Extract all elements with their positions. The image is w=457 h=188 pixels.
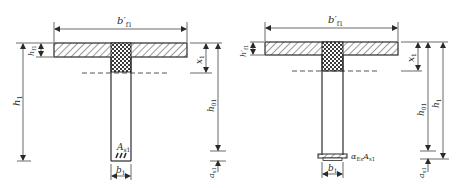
left-neutral-depth-label: x1 (194, 55, 205, 64)
right-flange-width-label: b′f1 (328, 14, 343, 28)
right-web-width-label: b1 (328, 163, 338, 174)
right-effective-depth-label: h01 (416, 103, 427, 116)
right-compression-zone (322, 42, 343, 71)
left-steel-area-label: As1 (116, 142, 130, 153)
right-neutral-depth-label: x1 (406, 53, 417, 62)
right-total-height-label: h1 (431, 98, 442, 108)
right-transformed-steel-plate (318, 154, 347, 158)
left-flange-thickness-label: hf1 (27, 45, 37, 56)
left-total-height-label: h1 (11, 95, 24, 106)
left-t-section: As1 b′f1 hf1 h1 b1 x1 h01 as1 (11, 15, 226, 180)
right-transformed-steel-label: αEsAs1 (351, 152, 375, 162)
left-compression-zone (111, 43, 131, 72)
left-cover-label: as1 (207, 167, 217, 178)
left-web-width-label: b1 (116, 165, 126, 176)
t-beam-diagram: As1 b′f1 hf1 h1 b1 x1 h01 as1 (0, 0, 457, 188)
left-flange-width-label: b′f1 (117, 15, 132, 29)
right-flange-thickness-label: h′f1 (239, 44, 249, 57)
right-t-section: αEsAs1 b′f1 h′f1 b1 x1 h01 h1 as1 (239, 14, 449, 178)
left-effective-depth-label: h01 (206, 99, 217, 112)
right-cover-label: as1 (417, 167, 427, 178)
left-rebar-icon (116, 153, 126, 158)
